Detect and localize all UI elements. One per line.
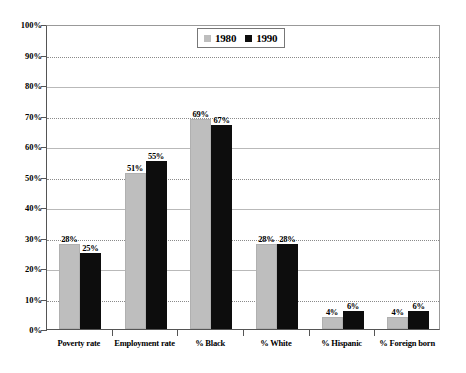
y-axis-tick-label: 100%: [4, 20, 42, 30]
bar-1990-white: [277, 244, 298, 329]
gridline: [47, 179, 439, 180]
x-axis-category-label: % Foreign born: [359, 338, 455, 349]
bar-value-label: 25%: [70, 243, 110, 253]
legend-item-1980: 1980: [204, 32, 236, 44]
gridline: [47, 118, 439, 119]
grouped-bar-chart: 100%90%80%70%60%50%40%30%20%10%0% 28%25%…: [0, 0, 466, 373]
legend-label-1980: 1980: [215, 32, 236, 44]
chart-legend: 1980 1990: [197, 28, 285, 48]
x-axis-tick-mark: [309, 330, 310, 336]
y-axis-tick-label: 90%: [4, 51, 42, 61]
y-axis-tick-label: 0%: [4, 325, 42, 335]
plot-area: 28%25%51%55%69%67%28%28%4%6%4%6%: [46, 25, 440, 330]
bar-1980-foreign-born: [387, 317, 408, 329]
bar-1980-white: [256, 244, 277, 329]
y-axis-tick-label: 80%: [4, 81, 42, 91]
y-axis-tick-label: 10%: [4, 295, 42, 305]
y-axis-tick-label: 60%: [4, 142, 42, 152]
bar-1990-black: [211, 125, 232, 329]
bar-1980-black: [190, 119, 211, 329]
y-axis-tick-label: 40%: [4, 203, 42, 213]
legend-swatch-1990-icon: [245, 35, 252, 42]
gridline: [47, 301, 439, 302]
y-axis-tick-label: 70%: [4, 112, 42, 122]
bar-1990-employment-rate: [146, 161, 167, 329]
y-axis-tick-mark: [41, 330, 47, 331]
gridline: [47, 270, 439, 271]
bar-1990-foreign-born: [408, 311, 429, 329]
bar-1980-employment-rate: [125, 173, 146, 329]
y-axis-tick-label: 30%: [4, 234, 42, 244]
bar-value-label: 6%: [399, 301, 439, 311]
y-axis-tick-label: 20%: [4, 264, 42, 274]
bar-1990-hispanic: [343, 311, 364, 329]
x-axis-tick-mark: [112, 330, 113, 336]
gridline: [47, 87, 439, 88]
gridline: [47, 209, 439, 210]
y-axis-tick-label: 50%: [4, 173, 42, 183]
gridline: [47, 57, 439, 58]
bar-value-label: 28%: [267, 234, 307, 244]
bar-1990-poverty-rate: [80, 253, 101, 329]
legend-label-1990: 1990: [256, 32, 277, 44]
bar-1980-poverty-rate: [59, 244, 80, 329]
legend-item-1990: 1990: [245, 32, 277, 44]
x-axis-tick-mark: [374, 330, 375, 336]
bar-value-label: 55%: [136, 151, 176, 161]
x-axis-tick-mark: [243, 330, 244, 336]
bar-value-label: 67%: [202, 115, 242, 125]
legend-swatch-1980-icon: [204, 35, 211, 42]
x-axis-tick-mark: [177, 330, 178, 336]
gridline: [47, 148, 439, 149]
bar-1980-hispanic: [322, 317, 343, 329]
gridline: [47, 240, 439, 241]
bar-value-label: 6%: [333, 301, 373, 311]
